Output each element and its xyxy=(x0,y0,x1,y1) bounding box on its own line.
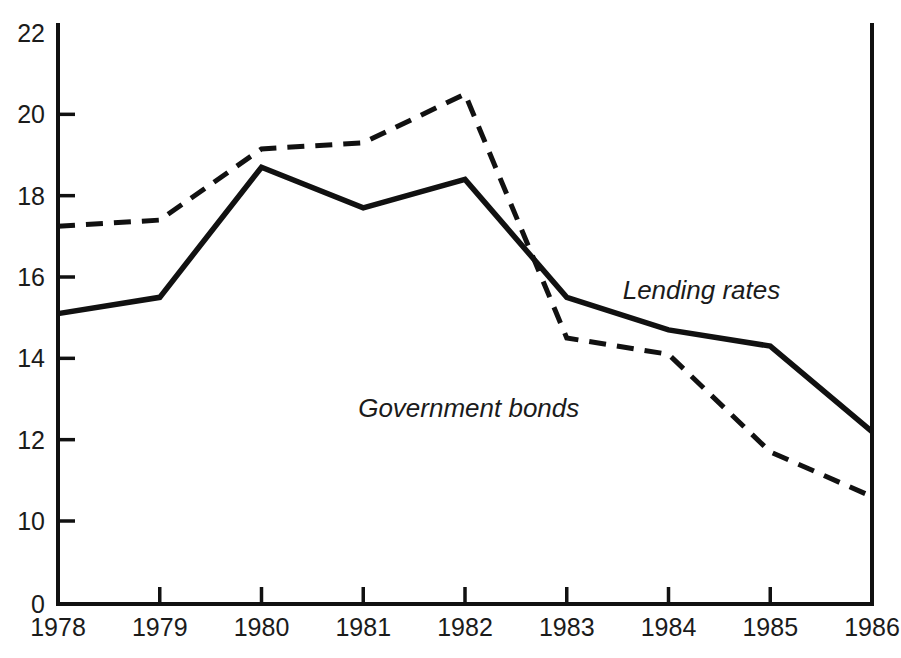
axis-frame-lines xyxy=(58,25,872,604)
y-axis-tick-label: 12 xyxy=(17,426,45,454)
y-axis-tick-labels: 010121416182022 xyxy=(17,19,45,618)
y-axis-tick-label: 10 xyxy=(17,507,45,535)
y-axis-tick-marks xyxy=(58,114,75,521)
chart-canvas: 010121416182022 197819791980198119821983… xyxy=(0,0,901,658)
x-axis-tick-label: 1984 xyxy=(641,613,697,641)
y-axis-tick-label: 16 xyxy=(17,263,45,291)
y-axis-tick-label: 20 xyxy=(17,100,45,128)
x-axis-tick-label: 1980 xyxy=(234,613,290,641)
x-axis-tick-label: 1982 xyxy=(437,613,493,641)
interest-rates-line-chart: 010121416182022 197819791980198119821983… xyxy=(0,0,901,658)
series-label-government-bonds: Government bonds xyxy=(358,393,579,423)
y-axis-tick-label: 18 xyxy=(17,182,45,210)
x-axis-tick-label: 1981 xyxy=(335,613,391,641)
y-axis-tick-label: 14 xyxy=(17,344,45,372)
x-axis-tick-marks xyxy=(160,587,771,604)
series-label-lending-rates: Lending rates xyxy=(623,275,781,305)
plot-frame xyxy=(58,25,872,604)
x-axis-tick-label: 1985 xyxy=(742,613,798,641)
x-axis-tick-label: 1978 xyxy=(30,613,86,641)
x-axis-tick-label: 1983 xyxy=(539,613,595,641)
y-axis-tick-label: 22 xyxy=(17,19,45,47)
x-axis-tick-label: 1979 xyxy=(132,613,188,641)
x-axis-tick-label: 1986 xyxy=(844,613,900,641)
x-axis-tick-labels: 197819791980198119821983198419851986 xyxy=(30,613,900,641)
